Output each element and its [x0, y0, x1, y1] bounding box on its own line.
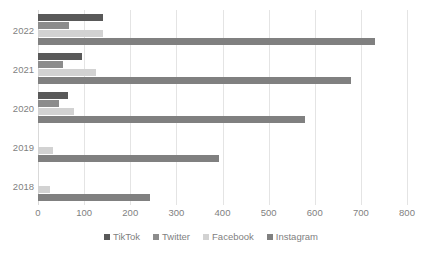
bar-row	[38, 147, 407, 154]
gridline-800	[407, 10, 408, 205]
bar-chart: 20222021202020192018 0100200300400500600…	[0, 0, 422, 258]
bar-row	[38, 30, 407, 37]
y-tick-label-2020: 2020	[0, 102, 34, 113]
bar-instagram-2021[interactable]	[38, 77, 351, 84]
legend-item-facebook[interactable]: Facebook	[203, 231, 254, 242]
x-tick-label-800: 800	[399, 207, 415, 218]
legend-item-instagram[interactable]: Instagram	[267, 231, 318, 242]
bar-row	[38, 170, 407, 177]
bar-twitter-2020[interactable]	[38, 100, 59, 107]
x-tick-label-0: 0	[35, 207, 40, 218]
bar-group-2019	[38, 127, 407, 166]
legend-swatch-icon	[267, 234, 273, 240]
bar-row	[38, 38, 407, 45]
bar-row	[38, 194, 407, 201]
legend-label: Instagram	[276, 231, 318, 242]
bar-facebook-2018[interactable]	[38, 186, 50, 193]
bar-row	[38, 92, 407, 99]
x-tick-label-200: 200	[122, 207, 138, 218]
bar-group-2018	[38, 166, 407, 205]
bar-row	[38, 155, 407, 162]
bar-instagram-2020[interactable]	[38, 116, 305, 123]
x-tick-label-600: 600	[307, 207, 323, 218]
legend-label: TikTok	[113, 231, 140, 242]
bar-twitter-2021[interactable]	[38, 61, 63, 68]
bar-row	[38, 77, 407, 84]
bar-row	[38, 178, 407, 185]
bar-row	[38, 53, 407, 60]
bar-row	[38, 139, 407, 146]
y-tick-label-2021: 2021	[0, 63, 34, 74]
bar-instagram-2022[interactable]	[38, 38, 375, 45]
y-tick-label-2019: 2019	[0, 141, 34, 152]
bar-tiktok-2020[interactable]	[38, 92, 68, 99]
y-tick-label-2018: 2018	[0, 180, 34, 191]
bar-facebook-2021[interactable]	[38, 69, 96, 76]
bar-group-2020	[38, 88, 407, 127]
bar-row	[38, 100, 407, 107]
bar-tiktok-2022[interactable]	[38, 14, 103, 21]
bar-facebook-2019[interactable]	[38, 147, 53, 154]
x-tick-label-700: 700	[353, 207, 369, 218]
bar-row	[38, 22, 407, 29]
x-tick-label-400: 400	[215, 207, 231, 218]
bar-group-2022	[38, 10, 407, 49]
legend-swatch-icon	[153, 234, 159, 240]
y-axis: 20222021202020192018	[0, 10, 34, 205]
legend-item-tiktok[interactable]: TikTok	[104, 231, 140, 242]
legend-swatch-icon	[203, 234, 209, 240]
bar-instagram-2018[interactable]	[38, 194, 150, 201]
bar-facebook-2020[interactable]	[38, 108, 74, 115]
x-axis: 0100200300400500600700800	[38, 206, 407, 222]
legend-swatch-icon	[104, 234, 110, 240]
y-tick-label-2022: 2022	[0, 24, 34, 35]
bar-twitter-2022[interactable]	[38, 22, 69, 29]
legend-label: Facebook	[212, 231, 254, 242]
legend-label: Twitter	[162, 231, 190, 242]
x-tick-label-100: 100	[76, 207, 92, 218]
bar-row	[38, 61, 407, 68]
chart-legend: TikTokTwitterFacebookInstagram	[0, 231, 422, 242]
x-tick-label-300: 300	[168, 207, 184, 218]
bar-facebook-2022[interactable]	[38, 30, 103, 37]
bar-instagram-2019[interactable]	[38, 155, 219, 162]
bar-row	[38, 131, 407, 138]
bar-row	[38, 14, 407, 21]
legend-item-twitter[interactable]: Twitter	[153, 231, 190, 242]
bar-row	[38, 108, 407, 115]
plot-area	[38, 10, 407, 205]
bar-row	[38, 116, 407, 123]
bar-group-2021	[38, 49, 407, 88]
bar-row	[38, 69, 407, 76]
bar-tiktok-2021[interactable]	[38, 53, 82, 60]
x-tick-label-500: 500	[261, 207, 277, 218]
bar-row	[38, 186, 407, 193]
